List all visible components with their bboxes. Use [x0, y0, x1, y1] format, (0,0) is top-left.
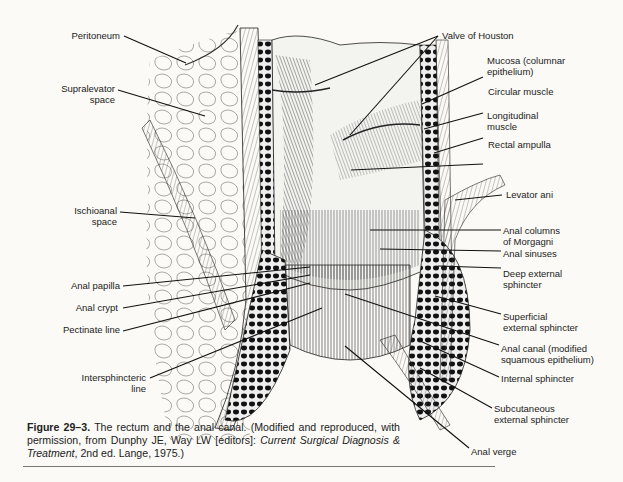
figure-caption: Figure 29–3. The rectum and the anal can… [27, 421, 400, 460]
label-mucosa: Mucosa (columnar epithelium) [487, 55, 565, 77]
figure-number: Figure 29–3. [27, 421, 90, 433]
label-valve-of-houston: Valve of Houston [442, 30, 514, 41]
label-deep-external-sphincter: Deep external sphincter [503, 268, 562, 290]
label-supralevator-space: Supralevator space [40, 83, 115, 105]
label-pectinate-line: Pectinate line [30, 324, 120, 335]
caption-tail: , 2nd ed. Lange, 1975.) [75, 447, 185, 459]
label-anal-sinuses: Anal sinuses [503, 248, 557, 259]
label-internal-sphincter: Internal sphincter [501, 373, 574, 384]
rectal-lumen [272, 36, 425, 290]
caption-rule [23, 466, 495, 467]
label-longitudinal-muscle: Longitudinal muscle [487, 110, 538, 132]
label-anal-columns: Anal columns of Morgagni [503, 225, 560, 247]
label-ischioanal-space: Ischioanal space [40, 205, 117, 227]
label-circular-muscle: Circular muscle [488, 86, 553, 97]
label-rectal-ampulla: Rectal ampulla [488, 139, 551, 150]
label-peritoneum: Peritoneum [56, 30, 120, 41]
label-anal-crypt: Anal crypt [40, 302, 118, 313]
label-anal-canal: Anal canal (modified squamous epithelium… [501, 343, 594, 365]
label-anal-verge: Anal verge [471, 446, 516, 457]
label-levator-ani: Levator ani [506, 189, 553, 200]
label-intersphincteric-line: Intersphincteric line [60, 372, 146, 394]
label-superficial-external-sphincter: Superficial external sphincter [503, 311, 578, 333]
label-subcutaneous-external-sphincter: Subcutaneous external sphincter [494, 403, 569, 425]
label-anal-papilla: Anal papilla [40, 280, 120, 291]
